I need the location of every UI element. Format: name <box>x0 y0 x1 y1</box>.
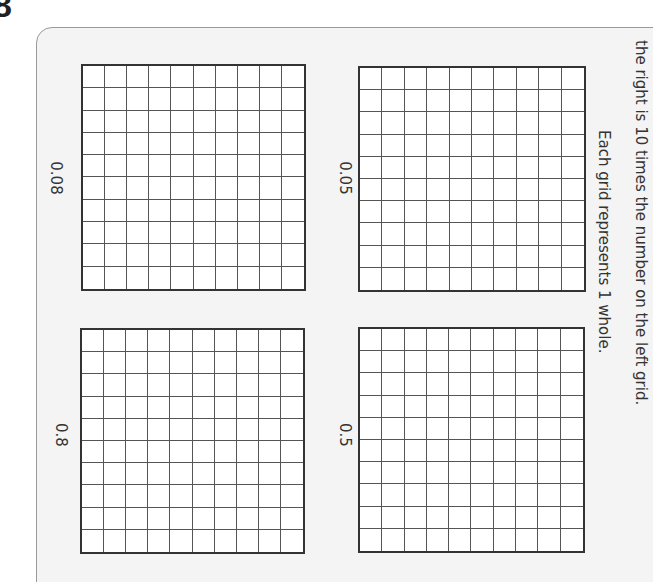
grid-cell[interactable] <box>471 396 493 418</box>
grid-cell[interactable] <box>238 200 260 222</box>
grid-cell[interactable] <box>83 111 105 133</box>
grid-cell[interactable] <box>149 200 171 222</box>
grid-cell[interactable] <box>382 223 404 245</box>
grid-cell[interactable] <box>82 374 104 396</box>
grid-cell[interactable] <box>216 155 238 177</box>
grid-cell[interactable] <box>562 268 584 290</box>
grid-cell[interactable] <box>449 529 471 551</box>
grid-cell[interactable] <box>427 351 449 373</box>
grid-cell[interactable] <box>450 68 472 90</box>
grid-cell[interactable] <box>194 88 216 110</box>
grid-cell[interactable] <box>405 157 427 179</box>
grid-cell[interactable] <box>360 351 382 373</box>
grid-cell[interactable] <box>405 179 427 201</box>
grid-cell[interactable] <box>193 419 215 441</box>
grid-cell[interactable] <box>170 352 192 374</box>
grid-cell[interactable] <box>494 246 516 268</box>
grid-cell[interactable] <box>170 397 192 419</box>
grid-cell[interactable] <box>405 462 427 484</box>
grid-cell[interactable] <box>215 374 237 396</box>
grid-cell[interactable] <box>170 530 192 552</box>
grid-cell[interactable] <box>215 352 237 374</box>
grid-cell[interactable] <box>194 66 216 88</box>
grid-cell[interactable] <box>237 397 259 419</box>
grid-cell[interactable] <box>427 507 449 529</box>
grid-cell[interactable] <box>360 440 382 462</box>
grid-cell[interactable] <box>215 463 237 485</box>
hundred-grid-top-left[interactable] <box>81 64 306 291</box>
grid-cell[interactable] <box>382 268 404 290</box>
grid-cell[interactable] <box>82 485 104 507</box>
grid-cell[interactable] <box>238 88 260 110</box>
grid-cell[interactable] <box>360 135 382 157</box>
grid-cell[interactable] <box>494 507 516 529</box>
grid-cell[interactable] <box>450 268 472 290</box>
grid-cell[interactable] <box>516 507 538 529</box>
grid-cell[interactable] <box>539 135 561 157</box>
grid-cell[interactable] <box>126 485 148 507</box>
grid-cell[interactable] <box>149 244 171 266</box>
grid-cell[interactable] <box>360 462 382 484</box>
grid-cell[interactable] <box>449 351 471 373</box>
grid-cell[interactable] <box>360 507 382 529</box>
grid-cell[interactable] <box>494 329 516 351</box>
grid-cell[interactable] <box>282 133 304 155</box>
grid-cell[interactable] <box>517 112 539 134</box>
grid-cell[interactable] <box>427 462 449 484</box>
grid-cell[interactable] <box>562 135 584 157</box>
grid-cell[interactable] <box>259 485 281 507</box>
grid-cell[interactable] <box>427 157 449 179</box>
grid-cell[interactable] <box>193 508 215 530</box>
grid-cell[interactable] <box>194 200 216 222</box>
grid-cell[interactable] <box>238 177 260 199</box>
grid-cell[interactable] <box>360 201 382 223</box>
grid-cell[interactable] <box>539 179 561 201</box>
grid-cell[interactable] <box>517 68 539 90</box>
grid-cell[interactable] <box>193 463 215 485</box>
grid-cell[interactable] <box>281 352 303 374</box>
grid-cell[interactable] <box>405 68 427 90</box>
grid-cell[interactable] <box>405 201 427 223</box>
grid-cell[interactable] <box>260 200 282 222</box>
grid-cell[interactable] <box>237 374 259 396</box>
grid-cell[interactable] <box>472 246 494 268</box>
grid-cell[interactable] <box>360 179 382 201</box>
grid-cell[interactable] <box>517 268 539 290</box>
grid-cell[interactable] <box>561 462 583 484</box>
grid-cell[interactable] <box>471 351 493 373</box>
grid-cell[interactable] <box>105 88 127 110</box>
grid-cell[interactable] <box>104 397 126 419</box>
grid-cell[interactable] <box>216 267 238 289</box>
grid-cell[interactable] <box>83 177 105 199</box>
grid-cell[interactable] <box>538 462 560 484</box>
grid-cell[interactable] <box>83 267 105 289</box>
grid-cell[interactable] <box>450 179 472 201</box>
grid-cell[interactable] <box>494 418 516 440</box>
grid-cell[interactable] <box>237 485 259 507</box>
grid-cell[interactable] <box>561 373 583 395</box>
grid-cell[interactable] <box>127 88 149 110</box>
grid-cell[interactable] <box>449 396 471 418</box>
grid-cell[interactable] <box>105 66 127 88</box>
grid-cell[interactable] <box>194 267 216 289</box>
grid-cell[interactable] <box>449 373 471 395</box>
grid-cell[interactable] <box>260 222 282 244</box>
grid-cell[interactable] <box>148 374 170 396</box>
grid-cell[interactable] <box>104 441 126 463</box>
grid-cell[interactable] <box>282 66 304 88</box>
grid-cell[interactable] <box>83 222 105 244</box>
grid-cell[interactable] <box>516 440 538 462</box>
grid-cell[interactable] <box>281 441 303 463</box>
grid-cell[interactable] <box>193 485 215 507</box>
grid-cell[interactable] <box>516 462 538 484</box>
grid-cell[interactable] <box>170 374 192 396</box>
grid-cell[interactable] <box>238 133 260 155</box>
grid-cell[interactable] <box>105 244 127 266</box>
grid-cell[interactable] <box>517 90 539 112</box>
grid-cell[interactable] <box>216 244 238 266</box>
grid-cell[interactable] <box>472 201 494 223</box>
grid-cell[interactable] <box>104 508 126 530</box>
grid-cell[interactable] <box>127 222 149 244</box>
grid-cell[interactable] <box>148 330 170 352</box>
grid-cell[interactable] <box>405 396 427 418</box>
